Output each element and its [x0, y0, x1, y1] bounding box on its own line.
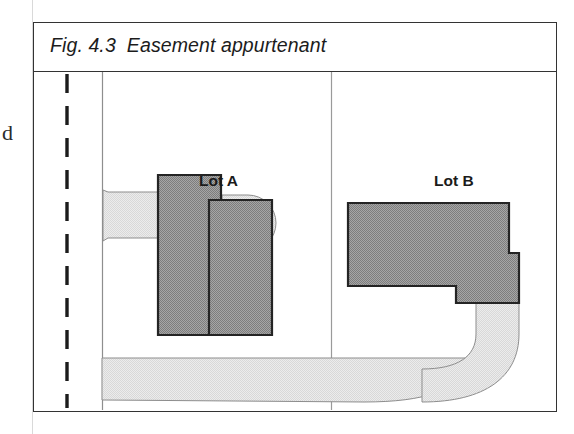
lot-a-label: Lot A	[199, 172, 238, 190]
lot-b-label: Lot B	[434, 172, 474, 190]
figure-caption: Fig. 4.3 Easement appurtenant	[50, 34, 326, 57]
margin-glyph: d	[2, 122, 13, 144]
figure-container: Fig. 4.3 Easement appurtenant	[33, 22, 557, 412]
lot-a-building-block-right	[209, 200, 272, 335]
lot-a-driveway-stub	[103, 190, 160, 241]
page-gutter	[0, 0, 33, 434]
plan-svg	[34, 72, 555, 410]
easement-curved-sweep	[422, 303, 519, 402]
lot-b-building	[348, 203, 519, 303]
figure-caption-bar: Fig. 4.3 Easement appurtenant	[34, 23, 556, 72]
easement-horizontal-leg	[102, 358, 474, 402]
property-plan-drawing: Lot A Lot B Easement	[34, 72, 555, 410]
